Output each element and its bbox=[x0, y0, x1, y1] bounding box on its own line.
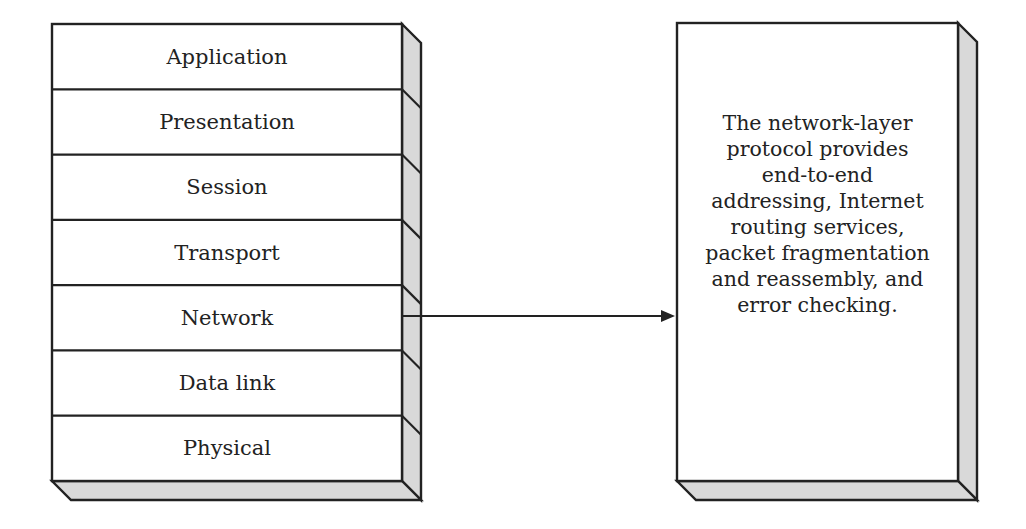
network-to-description-arrow bbox=[402, 310, 675, 322]
layer-application: Application bbox=[165, 45, 287, 69]
layer-label: Application bbox=[165, 45, 287, 69]
layer-label: Transport bbox=[174, 241, 280, 265]
layer-label: Data link bbox=[179, 371, 276, 395]
layer-label: Session bbox=[186, 175, 267, 199]
layer-label: Network bbox=[181, 306, 274, 330]
box-side-face bbox=[958, 23, 977, 500]
osi-layer-stack: ApplicationPresentationSessionTransportN… bbox=[52, 24, 421, 500]
stack-bottom-face bbox=[52, 481, 421, 500]
arrow-head-icon bbox=[661, 310, 675, 322]
stack-side-face bbox=[402, 24, 421, 500]
layer-label: Physical bbox=[183, 436, 271, 460]
layer-label: Presentation bbox=[159, 110, 295, 134]
description-text: The network-layer protocol provides end-… bbox=[677, 0, 958, 443]
box-bottom-face bbox=[677, 481, 977, 500]
